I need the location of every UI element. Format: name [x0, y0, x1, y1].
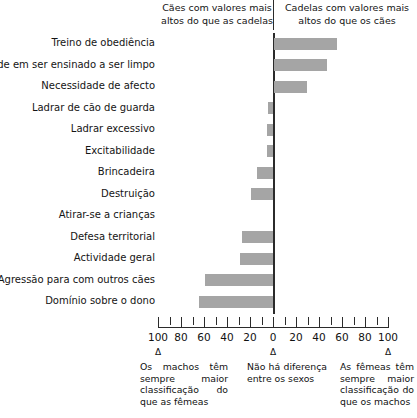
footnote-left: Os machos têm sempre maior classificação… — [140, 361, 228, 407]
axis-tick — [273, 317, 274, 328]
axis-tick — [170, 317, 171, 325]
category-label: Agressão para com outros cães — [0, 273, 155, 286]
bar — [274, 38, 337, 50]
axis-tick — [204, 317, 205, 328]
axis-ticks-container — [0, 314, 417, 330]
bar — [267, 124, 273, 136]
delta-marker: Δ — [378, 347, 398, 357]
axis-tick — [365, 317, 366, 328]
axis-tick — [342, 317, 343, 328]
axis-tick — [354, 317, 355, 325]
axis-tick-labels: 10080604020020406080100 — [0, 331, 417, 345]
category-label: Brincadeira — [98, 165, 155, 178]
footnote-right: As fêmeas têm sempre maior classificação… — [340, 361, 414, 407]
axis-tick — [239, 317, 240, 325]
chart-row: Destruição — [0, 184, 417, 206]
category-label: Excitabilidade — [85, 144, 155, 157]
axis-tick — [296, 317, 297, 328]
bar — [240, 253, 273, 265]
chart-row: Ladrar de cão de guarda — [0, 98, 417, 120]
axis-tick — [181, 317, 182, 328]
chart-row: Facilidade em ser ensinado a ser limpo — [0, 55, 417, 77]
bar — [268, 102, 273, 114]
axis-tick — [262, 317, 263, 325]
category-label: Domínio sobre o dono — [45, 294, 155, 307]
category-label: Necessidade de afecto — [41, 79, 155, 92]
chart-rows: Treino de obediênciaFacilidade em ser en… — [0, 33, 417, 313]
category-label: Ladrar de cão de guarda — [32, 101, 155, 114]
bar — [274, 59, 327, 71]
header-caption-left: Cães com valores mais altos do que as ca… — [160, 2, 274, 27]
category-label: Actividade geral — [74, 251, 155, 264]
chart-row: Domínio sobre o dono — [0, 291, 417, 313]
chart-row: Atirar-se a crianças — [0, 205, 417, 227]
bar — [251, 188, 273, 200]
chart-row: Necessidade de afecto — [0, 76, 417, 98]
axis-tick — [158, 317, 159, 328]
axis-tick — [388, 317, 389, 328]
axis-tick — [331, 317, 332, 325]
header-caption-right: Cadelas com valores mais altos do que os… — [284, 2, 410, 27]
chart-row: Agressão para com outros cães — [0, 270, 417, 292]
chart-header: Cães com valores mais altos do que as ca… — [160, 2, 410, 32]
axis-tick — [308, 317, 309, 325]
footnote-middle: Não há diferença entre os sexos — [247, 361, 327, 384]
axis-tick — [319, 317, 320, 328]
delta-marker: Δ — [263, 347, 283, 357]
category-label: Treino de obediência — [52, 36, 155, 49]
bar — [205, 274, 273, 286]
delta-marker: Δ — [148, 347, 168, 357]
bar — [242, 231, 273, 243]
chart-row: Brincadeira — [0, 162, 417, 184]
chart-row: Defesa territorial — [0, 227, 417, 249]
axis-tick — [216, 317, 217, 325]
category-label: Defesa territorial — [70, 230, 155, 243]
bar — [199, 296, 273, 308]
axis-tick — [250, 317, 251, 328]
axis-tick-label: 100 — [373, 331, 403, 343]
header-center-divider — [273, 0, 274, 30]
chart-footnotes: Os machos têm sempre maior classificação… — [0, 361, 417, 418]
chart-row: Excitabilidade — [0, 141, 417, 163]
category-label: Atirar-se a crianças — [59, 208, 155, 221]
chart-row: Treino de obediência — [0, 33, 417, 55]
bar — [274, 81, 307, 93]
axis-tick — [377, 317, 378, 325]
category-label: Ladrar excessivo — [71, 122, 155, 135]
category-label: Facilidade em ser ensinado a ser limpo — [0, 58, 155, 71]
diverging-bar-chart: Cães com valores mais altos do que as ca… — [0, 0, 417, 418]
chart-row: Ladrar excessivo — [0, 119, 417, 141]
category-label: Destruição — [101, 187, 155, 200]
axis-tick — [285, 317, 286, 325]
chart-row: Actividade geral — [0, 248, 417, 270]
bar — [267, 145, 273, 157]
axis-tick — [227, 317, 228, 328]
axis-tick — [193, 317, 194, 325]
bar — [257, 167, 273, 179]
